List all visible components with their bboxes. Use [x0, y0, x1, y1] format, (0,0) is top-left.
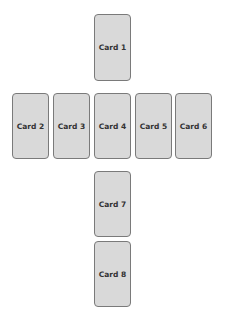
card-4: Card 4: [94, 93, 131, 159]
card-2: Card 2: [12, 93, 49, 159]
card-label: Card 6: [180, 122, 207, 131]
card-3: Card 3: [53, 93, 90, 159]
card-6: Card 6: [175, 93, 212, 159]
card-8: Card 8: [94, 241, 131, 307]
card-5: Card 5: [135, 93, 172, 159]
card-label: Card 1: [99, 43, 126, 52]
card-label: Card 3: [58, 122, 85, 131]
card-label: Card 8: [99, 270, 126, 279]
card-1: Card 1: [94, 14, 131, 81]
card-label: Card 7: [99, 200, 126, 209]
card-7: Card 7: [94, 171, 131, 237]
card-label: Card 2: [17, 122, 44, 131]
card-label: Card 4: [99, 122, 126, 131]
card-label: Card 5: [140, 122, 167, 131]
